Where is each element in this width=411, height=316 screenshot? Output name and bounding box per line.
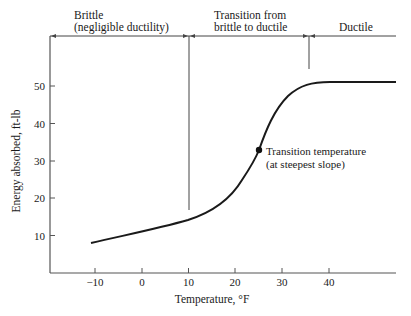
y-tick-label: 30 bbox=[34, 155, 46, 167]
region-transition-label: Transition from bbox=[214, 9, 286, 21]
ductile-brittle-transition-chart: Brittle (negligible ductility) Transitio… bbox=[0, 0, 411, 316]
x-tick-label: 30 bbox=[277, 276, 289, 288]
region-transition-sublabel: brittle to ductile bbox=[214, 21, 287, 33]
transition-point-marker bbox=[256, 147, 262, 153]
y-tick-label: 40 bbox=[34, 118, 46, 130]
x-tick-label: 40 bbox=[324, 276, 336, 288]
x-tick-label: 20 bbox=[230, 276, 242, 288]
region-brittle-sublabel: (negligible ductility) bbox=[74, 21, 169, 34]
y-tick-label: 10 bbox=[34, 230, 46, 242]
region-brackets bbox=[50, 34, 396, 210]
x-axis-title: Temperature, °F bbox=[175, 293, 250, 306]
x-ticks bbox=[95, 268, 329, 273]
region-ductile-label: Ductile bbox=[339, 21, 373, 33]
transition-annotation: Transition temperature bbox=[266, 145, 366, 157]
y-axis-title: Energy absorbed, ft-lb bbox=[10, 109, 23, 212]
y-tick-label: 50 bbox=[34, 80, 46, 92]
energy-curve bbox=[91, 82, 396, 243]
region-brittle-label: Brittle bbox=[74, 9, 103, 21]
x-tick-label: −10 bbox=[86, 276, 104, 288]
x-tick-label: 10 bbox=[183, 276, 195, 288]
transition-annotation-sub: (at steepest slope) bbox=[266, 158, 345, 171]
y-tick-label: 20 bbox=[34, 192, 46, 204]
x-tick-label: 0 bbox=[139, 276, 145, 288]
y-ticks bbox=[50, 86, 55, 236]
